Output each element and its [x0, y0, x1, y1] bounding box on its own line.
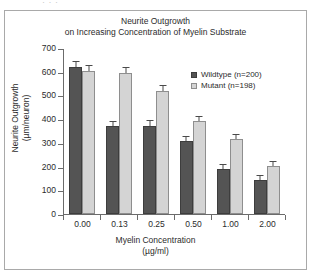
x-axis-title: Myelin Concentration (µg/ml) [5, 235, 306, 257]
legend-swatch [191, 83, 197, 89]
error-bar [88, 66, 89, 70]
bar-slot [106, 49, 119, 214]
chart-title-line-2: on Increasing Concentration of Myelin Su… [5, 27, 306, 38]
bar[interactable] [217, 169, 230, 214]
legend-label: Mutant (n=198) [201, 80, 255, 91]
y-axis-title-line-1: Neurite Outgrowth [10, 58, 21, 178]
bar[interactable] [254, 180, 267, 214]
bar[interactable] [267, 166, 280, 214]
error-bar-cap [233, 134, 240, 135]
chart-figure-frame: Neurite Outgrowth on Increasing Concentr… [4, 10, 307, 270]
legend-label: Wildtype (n=200) [201, 69, 262, 80]
error-bar [236, 135, 237, 138]
x-axis-tick-label: 0.25 [138, 219, 175, 229]
y-axis-tick-mark [58, 168, 63, 169]
error-bar-cap [146, 120, 153, 121]
y-axis-tick-mark [58, 120, 63, 121]
y-axis-tick-label: 700 [26, 43, 56, 53]
bar-group [64, 49, 101, 214]
error-bar-cap [72, 61, 79, 62]
y-axis-tick-label: 300 [26, 138, 56, 148]
error-bar-cap [183, 136, 190, 137]
clipped-text-remnant: · · · [42, 0, 152, 6]
x-axis-title-line-1: Myelin Concentration [5, 235, 306, 246]
chart-title: Neurite Outgrowth on Increasing Concentr… [5, 16, 306, 38]
x-axis-tick-label: 0.00 [64, 219, 101, 229]
x-axis-tick-label: 0.50 [175, 219, 212, 229]
legend-item[interactable]: Mutant (n=198) [191, 80, 262, 91]
error-bar [199, 117, 200, 121]
y-axis-tick-label: 600 [26, 67, 56, 77]
x-axis-tick-label: 2.00 [249, 219, 286, 229]
x-axis-tick-labels: 0.000.130.250.501.002.00 [64, 219, 286, 229]
error-bar-cap [220, 164, 227, 165]
bar-group [138, 49, 175, 214]
error-bar [149, 121, 150, 126]
error-bar-cap [85, 65, 92, 66]
y-axis-tick-mark [58, 49, 63, 50]
error-bar [223, 165, 224, 169]
bar[interactable] [180, 141, 193, 214]
bar[interactable] [143, 126, 156, 214]
error-bar [75, 62, 76, 67]
x-axis-title-line-2: (µg/ml) [5, 246, 306, 257]
error-bar-cap [109, 121, 116, 122]
bar[interactable] [230, 139, 243, 214]
y-axis-tick-label: 200 [26, 162, 56, 172]
y-axis-tick-mark [58, 96, 63, 97]
y-axis-tick-label: 500 [26, 90, 56, 100]
legend-swatch [191, 72, 197, 78]
bar[interactable] [69, 67, 82, 214]
error-bar [125, 68, 126, 73]
bar-slot [82, 49, 95, 214]
error-bar-cap [270, 161, 277, 162]
error-bar-cap [196, 116, 203, 117]
bar[interactable] [156, 91, 169, 214]
y-axis-tick-mark [58, 144, 63, 145]
bar-slot [267, 49, 280, 214]
bar[interactable] [193, 121, 206, 214]
error-bar-cap [159, 85, 166, 86]
error-bar [260, 176, 261, 180]
error-bar [273, 162, 274, 166]
bar[interactable] [106, 126, 119, 214]
bar-group [101, 49, 138, 214]
error-bar-cap [122, 67, 129, 68]
y-axis-tick-mark [58, 73, 63, 74]
bar-slot [156, 49, 169, 214]
bar-slot [119, 49, 132, 214]
bar-slot [69, 49, 82, 214]
error-bar [162, 86, 163, 91]
x-axis-tick-label: 1.00 [212, 219, 249, 229]
legend-item[interactable]: Wildtype (n=200) [191, 69, 262, 80]
error-bar-cap [257, 175, 264, 176]
chart-title-line-1: Neurite Outgrowth [5, 16, 306, 27]
x-axis-tick-label: 0.13 [101, 219, 138, 229]
bar[interactable] [82, 71, 95, 214]
y-axis-tick-mark [58, 191, 63, 192]
error-bar [186, 137, 187, 141]
bar[interactable] [119, 73, 132, 214]
error-bar [112, 122, 113, 127]
y-axis-tick-label: 100 [26, 185, 56, 195]
y-axis-tick-label: 400 [26, 114, 56, 124]
y-axis-tick-label: 0 [26, 209, 56, 219]
bar-slot [143, 49, 156, 214]
chart-legend: Wildtype (n=200)Mutant (n=198) [191, 69, 262, 91]
